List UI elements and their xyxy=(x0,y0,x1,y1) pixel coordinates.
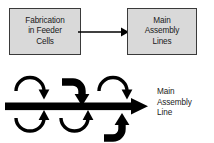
feeder-arc-bottom-1 xyxy=(16,110,49,131)
feeder-elbow-top-2 xyxy=(62,82,89,106)
main-assembly-line-caption: Main Assembly Line xyxy=(157,87,214,119)
diagram-canvas: Fabrication in Feeder Cells Main Assembl… xyxy=(0,0,214,143)
feeder-arc-top-1 xyxy=(16,78,49,100)
feeder-arc-bottom-2-arrowhead-icon xyxy=(83,110,94,120)
feeder-to-assembly-arrow xyxy=(78,22,132,42)
process-box-main-assembly-lines[interactable]: Main Assembly Lines xyxy=(127,8,197,55)
feeder-arc-top-3 xyxy=(99,78,132,100)
feeder-arc-bottom-2 xyxy=(61,110,93,131)
feeder-elbow-bottom-3 xyxy=(104,113,129,138)
feeder-elbow-bottom-3-path xyxy=(104,124,122,138)
main-assembly-line-arrow xyxy=(5,98,148,115)
process-box-fabrication-in-feeder-cells[interactable]: Fabrication in Feeder Cells xyxy=(9,8,81,55)
feeder-arc-top-1-arrowhead-icon xyxy=(39,90,50,100)
main-assembly-line-flow-illustration xyxy=(0,62,160,143)
feeder-arc-top-1-path xyxy=(16,78,44,92)
process-box-fabrication-label: Fabrication in Feeder Cells xyxy=(25,16,64,47)
feeder-arc-top-3-arrowhead-icon xyxy=(122,90,133,100)
process-box-main-assembly-label: Main Assembly Lines xyxy=(145,16,180,47)
feeder-elbow-bottom-3-arrowhead-icon xyxy=(115,113,130,125)
main-assembly-line-arrowhead-icon xyxy=(131,98,148,115)
feeder-arc-bottom-1-arrowhead-icon xyxy=(39,110,50,120)
feeder-elbow-top-2-path xyxy=(62,82,82,96)
feeder-arc-top-3-path xyxy=(99,78,127,92)
main-assembly-line-shaft xyxy=(5,103,134,111)
